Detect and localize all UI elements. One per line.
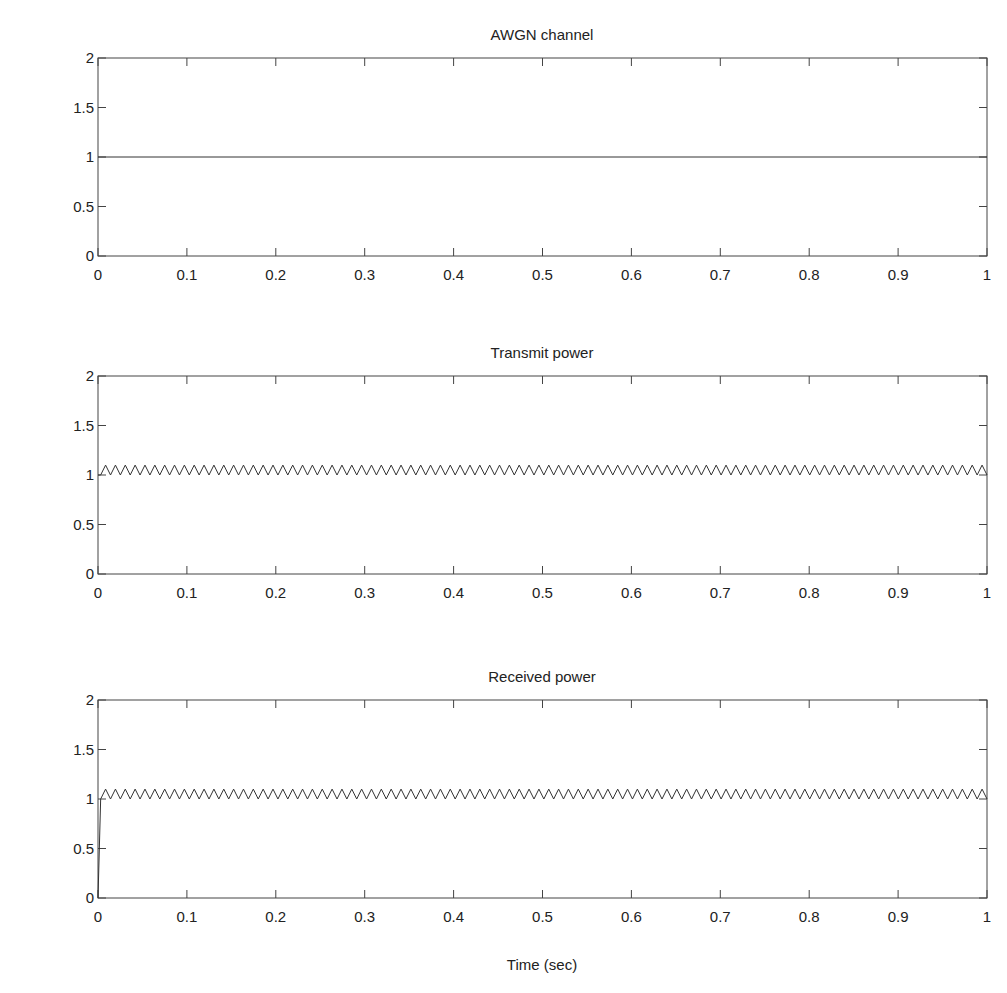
- y-tick-label: 0: [86, 247, 94, 264]
- x-tick-label: 0: [94, 266, 102, 283]
- x-tick-label: 0.5: [532, 584, 553, 601]
- x-tick-label: 0.4: [443, 584, 464, 601]
- x-tick-label: 0.5: [532, 908, 553, 925]
- x-axis-label: Time (sec): [507, 956, 577, 973]
- x-tick-label: 0.3: [354, 266, 375, 283]
- y-tick-label: 1: [86, 790, 94, 807]
- y-tick-label: 0.5: [73, 198, 94, 215]
- x-tick-label: 0.7: [710, 584, 731, 601]
- y-tick-label: 0.5: [73, 516, 94, 533]
- axes-box: [98, 700, 987, 898]
- x-tick-label: 0.8: [799, 908, 820, 925]
- x-tick-label: 0.2: [265, 584, 286, 601]
- y-tick-label: 2: [86, 691, 94, 708]
- series-line: [98, 789, 987, 898]
- x-tick-label: 0.7: [710, 266, 731, 283]
- plot-transmit-power: Transmit power 00.10.20.30.40.50.60.70.8…: [73, 344, 991, 601]
- x-tick-label: 0.4: [443, 908, 464, 925]
- x-tick-label: 0.8: [799, 584, 820, 601]
- axes-box: [98, 376, 987, 574]
- x-tick-label: 0.1: [176, 908, 197, 925]
- y-tick-label: 1: [86, 466, 94, 483]
- plot-title: Received power: [488, 668, 596, 685]
- y-tick-label: 2: [86, 367, 94, 384]
- x-tick-label: 0.6: [621, 266, 642, 283]
- plot-title: AWGN channel: [491, 26, 594, 43]
- y-tick-label: 0.5: [73, 840, 94, 857]
- plot-awgn-channel: AWGN channel 00.10.20.30.40.50.60.70.80.…: [73, 26, 991, 283]
- x-tick-label: 0.6: [621, 908, 642, 925]
- x-tick-label: 0.2: [265, 266, 286, 283]
- x-tick-label: 0.5: [532, 266, 553, 283]
- x-tick-label: 1: [983, 584, 991, 601]
- x-tick-label: 1: [983, 908, 991, 925]
- x-tick-label: 0: [94, 908, 102, 925]
- y-tick-label: 1.5: [73, 741, 94, 758]
- plot-title: Transmit power: [491, 344, 594, 361]
- x-tick-label: 0.1: [176, 266, 197, 283]
- x-tick-label: 0.9: [888, 908, 909, 925]
- x-tick-label: 0.9: [888, 266, 909, 283]
- x-tick-label: 0.4: [443, 266, 464, 283]
- x-tick-label: 0.8: [799, 266, 820, 283]
- series-line: [98, 465, 987, 475]
- y-tick-label: 0: [86, 565, 94, 582]
- figure: AWGN channel 00.10.20.30.40.50.60.70.80.…: [0, 0, 1007, 993]
- x-tick-label: 0.7: [710, 908, 731, 925]
- y-tick-label: 1.5: [73, 417, 94, 434]
- x-tick-label: 1: [983, 266, 991, 283]
- x-tick-label: 0.3: [354, 908, 375, 925]
- x-tick-label: 0.3: [354, 584, 375, 601]
- x-tick-label: 0.9: [888, 584, 909, 601]
- plot-received-power: Received power Time (sec) 00.10.20.30.40…: [73, 668, 991, 973]
- x-tick-label: 0: [94, 584, 102, 601]
- x-tick-label: 0.1: [176, 584, 197, 601]
- y-tick-label: 1: [86, 148, 94, 165]
- x-tick-label: 0.6: [621, 584, 642, 601]
- x-tick-label: 0.2: [265, 908, 286, 925]
- y-tick-label: 2: [86, 49, 94, 66]
- y-tick-label: 1.5: [73, 99, 94, 116]
- y-tick-label: 0: [86, 889, 94, 906]
